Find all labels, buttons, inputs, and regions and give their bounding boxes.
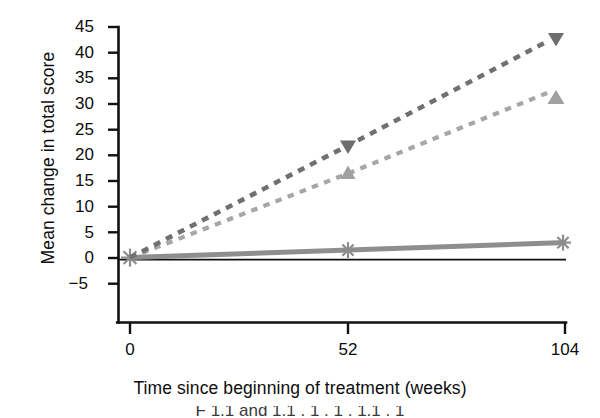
marker-triangle-down (340, 141, 356, 155)
y-axis-ticks (108, 27, 118, 284)
y-axis-label-text: Mean change in total score (38, 52, 59, 265)
x-tick-label-104: 104 (535, 341, 595, 358)
figure-caption-clip: F 1.1 and 1.1 . 1 . 1 . 1.1 . 1 (0, 406, 600, 418)
x-tick-label-52: 52 (318, 341, 378, 358)
marker-triangle-up (548, 90, 565, 104)
marker-triangle-down (548, 33, 564, 47)
x-axis-label: Time since beginning of treatment (weeks… (0, 378, 600, 399)
series-dashed-down-triangle (130, 33, 564, 258)
x-axis-ticks (130, 323, 565, 335)
y-axis-label: Mean change in total score (34, 8, 62, 308)
x-tick-label-0: 0 (100, 341, 160, 358)
series-dashed-up-triangle (130, 90, 565, 258)
figure-container: 45 40 35 30 25 20 15 10 5 0 −5 0 52 104 … (0, 0, 600, 418)
series-solid-star (121, 235, 571, 267)
figure-caption-partial: F 1.1 and 1.1 . 1 . 1 . 1.1 . 1 (0, 406, 600, 418)
